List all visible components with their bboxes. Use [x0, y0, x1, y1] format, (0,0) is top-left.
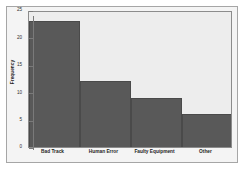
y-tick-label-15: 15: [8, 62, 22, 67]
y-tick-10: [29, 93, 33, 94]
y-tick-15: [29, 66, 33, 67]
bar-3[interactable]: [182, 114, 232, 147]
x-axis-category-labels: Bad TrackHuman ErrorFaulty EquipmentOthe…: [27, 148, 231, 158]
x-label-2: Faulty Equipment: [129, 148, 180, 155]
y-tick-25: [29, 11, 33, 12]
chart-figure-frame: Frequency: [6, 6, 238, 163]
chart-figure-background: Frequency: [7, 7, 237, 162]
y-tick-5: [29, 121, 33, 122]
y-tick-label-25: 25: [8, 7, 22, 12]
bar-0[interactable]: [29, 21, 80, 147]
y-axis-tick-labels: 0510152025: [4, 0, 22, 171]
bars-layer: [29, 12, 231, 147]
y-tick-label-10: 10: [8, 90, 22, 95]
x-label-0: Bad Track: [27, 148, 78, 155]
x-label-3: Other: [180, 148, 231, 155]
plot-area: [28, 11, 232, 148]
x-label-1: Human Error: [78, 148, 129, 155]
y-axis-line: [33, 16, 34, 150]
y-tick-label-20: 20: [8, 35, 22, 40]
y-tick-label-5: 5: [8, 117, 22, 122]
y-tick-label-0: 0: [8, 144, 22, 149]
bar-2[interactable]: [131, 98, 182, 147]
y-tick-20: [29, 38, 33, 39]
bar-1[interactable]: [80, 81, 131, 147]
